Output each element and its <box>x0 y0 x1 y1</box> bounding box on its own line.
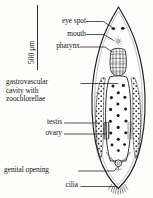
label-genital-opening: genital opening <box>4 166 49 175</box>
label-testis: testis <box>22 118 62 127</box>
pharynx <box>110 48 126 75</box>
label-gastrovascular-cavity: gastrovascular cavity with zoochlorellae <box>6 78 48 104</box>
label-ovary: ovary <box>22 129 62 138</box>
gastrovascular-cavity <box>106 76 131 161</box>
label-pharynx: pharynx <box>38 42 80 51</box>
label-eye-spot: eye spot <box>44 17 86 26</box>
label-gastrovascular-line-3: zoochlorellae <box>6 95 48 104</box>
label-cilia: cilia <box>44 181 78 190</box>
scale-bar-label: 500 μm <box>27 41 36 64</box>
figure-anatomical-diagram: 500 μm eye spot mouth pharynx gastrovasc… <box>0 0 153 198</box>
label-mouth: mouth <box>44 30 86 39</box>
